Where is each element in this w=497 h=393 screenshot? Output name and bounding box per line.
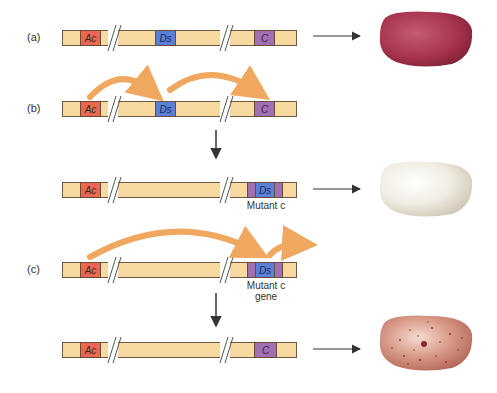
kernel-spotted [380, 316, 472, 371]
transposition-arrows [90, 75, 300, 257]
kernel-red [380, 12, 472, 67]
diagram-graphics [0, 0, 497, 393]
kernel-white [380, 162, 472, 217]
